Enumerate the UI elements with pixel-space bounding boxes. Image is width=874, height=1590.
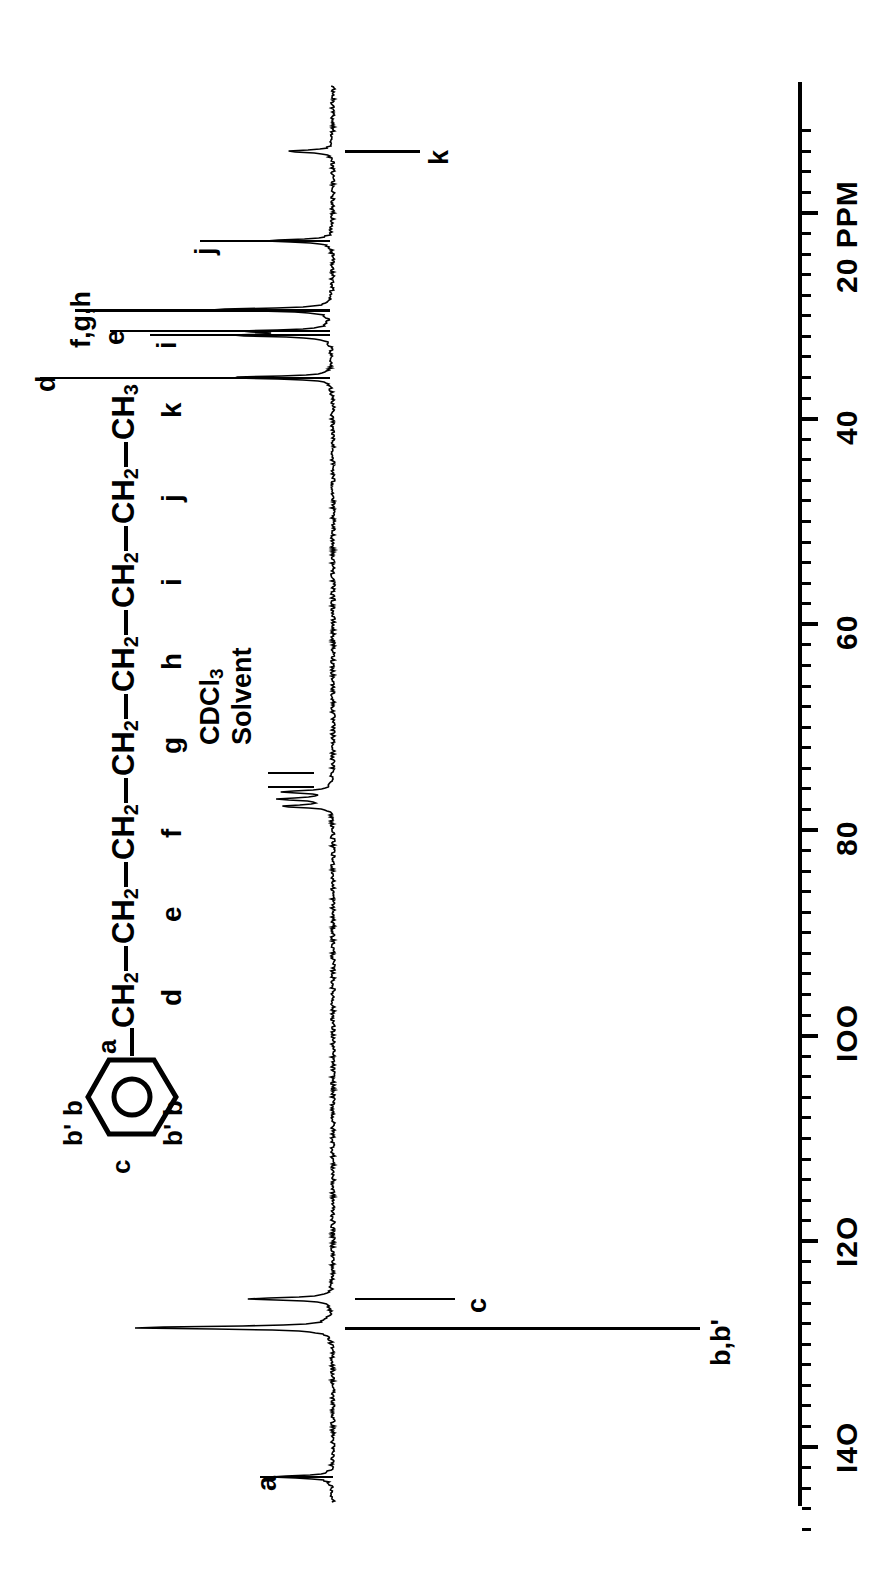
leader-line-bbp: [345, 1327, 700, 1330]
chain-letter-k: k: [156, 402, 188, 418]
chain-letter-e: e: [156, 906, 188, 922]
chain-subscript-e: 2: [120, 888, 142, 899]
peak-label-fgh: f,g,h: [66, 291, 97, 348]
ring-label-ipso: a: [92, 1040, 123, 1054]
nmr-spectrum-page: 20 PPM406080IOOI2OI4O kjf,g,heidcb,b'a C…: [0, 0, 874, 1590]
chain-formula-j: CH: [106, 479, 141, 524]
chain-formula-i: CH: [106, 563, 141, 608]
ring-label-ortho-top: b: [58, 1100, 89, 1116]
leader-line-e: [110, 330, 330, 332]
chain-subscript-d: 2: [120, 972, 142, 983]
leader-line-i: [150, 334, 330, 336]
chain-letter-i: i: [156, 578, 188, 586]
chain-subscript-k: 3: [120, 384, 142, 395]
ring-label-meta-top: b': [58, 1124, 89, 1146]
chain-subscript-i: 2: [120, 552, 142, 563]
chain-bond-4: [124, 610, 128, 635]
chain-unit-d: CH2: [106, 972, 143, 1028]
chain-subscript-g: 2: [120, 720, 142, 731]
chain-formula-e: CH: [106, 899, 141, 944]
peak-label-d: d: [31, 375, 62, 392]
peak-label-bbp: b,b': [706, 1319, 737, 1366]
peak-label-i: i: [152, 342, 183, 350]
chain-bond-1: [124, 862, 128, 887]
chain-letter-d: d: [156, 989, 188, 1006]
chain-letter-g: g: [156, 737, 188, 754]
peak-label-c: c: [462, 1298, 493, 1313]
chain-formula-h: CH: [106, 647, 141, 692]
chain-letter-h: h: [156, 653, 188, 670]
chain-unit-i: CH2: [106, 552, 143, 608]
leader-line-j: [200, 240, 330, 242]
solvent-leader-1: [268, 772, 314, 774]
chain-subscript-h: 2: [120, 636, 142, 647]
chain-subscript-j: 2: [120, 468, 142, 479]
chain-unit-g: CH2: [106, 720, 143, 776]
chain-formula-f: CH: [106, 815, 141, 860]
chain-unit-e: CH2: [106, 888, 143, 944]
chain-unit-h: CH2: [106, 636, 143, 692]
leader-line-fgh: [75, 309, 330, 312]
chemical-structure: a b b' b b' c CH2dCH2eCH2fCH2gCH2hCH2iCH…: [62, 420, 262, 1140]
ring-chain-bond: [130, 1028, 134, 1056]
chain-formula-k: CH: [106, 395, 141, 440]
ring-label-meta-bot: b': [158, 1124, 189, 1146]
ring-label-para: c: [106, 1160, 137, 1174]
chain-formula-d: CH: [106, 983, 141, 1028]
chain-bond-5: [124, 526, 128, 551]
solvent-leader-2: [268, 786, 314, 788]
peak-label-e: e: [100, 330, 131, 345]
chain-bond-6: [124, 442, 128, 467]
chain-unit-j: CH2: [106, 468, 143, 524]
leader-line-k: [345, 150, 420, 153]
peak-label-j: j: [190, 247, 221, 255]
ring-label-ortho-bot: b: [158, 1100, 189, 1116]
chain-formula-g: CH: [106, 731, 141, 776]
peak-label-k: k: [424, 150, 455, 165]
leader-line-d: [40, 377, 330, 379]
chain-letter-f: f: [156, 829, 188, 838]
leader-line-c: [355, 1298, 455, 1300]
chain-bond-3: [124, 694, 128, 719]
chain-bond-0: [124, 946, 128, 971]
chain-subscript-f: 2: [120, 804, 142, 815]
chain-bond-2: [124, 778, 128, 803]
peak-label-a: a: [252, 1476, 283, 1491]
chain-letter-j: j: [156, 494, 188, 502]
chain-unit-f: CH2: [106, 804, 143, 860]
chain-unit-k: CH3: [106, 384, 143, 440]
